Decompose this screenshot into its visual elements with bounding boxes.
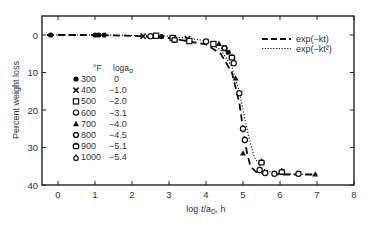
legend-temp: 1000	[81, 152, 101, 162]
x-tick-label: 5	[240, 189, 245, 200]
legend-marker	[73, 76, 78, 81]
data-point	[96, 32, 101, 37]
legend-loga: −4.5	[109, 130, 127, 140]
data-point	[237, 91, 242, 96]
legend-temp: 900	[81, 141, 96, 151]
data-point	[48, 32, 53, 37]
legend-marker	[73, 142, 78, 148]
y-tick-label: 20	[27, 105, 38, 116]
data-point	[211, 41, 216, 46]
x-tick-label: 7	[314, 189, 319, 200]
legend-row: 400−1.0	[73, 85, 126, 95]
legend-row: 500−2.0	[73, 96, 126, 106]
legend-temp: 700	[81, 119, 96, 129]
data-point	[240, 126, 245, 131]
x-tick-label: 6	[277, 189, 282, 200]
legend-temp: 300	[81, 74, 96, 84]
legend-loga: −3.1	[109, 108, 127, 118]
legend-header-loga: logaD	[113, 63, 134, 74]
temperature-legend: °FlogaD3000400−1.0500−2.0600−3.1700−4.08…	[73, 63, 134, 162]
legend-temp: 800	[81, 130, 96, 140]
data-point	[102, 32, 107, 37]
y-tick-label: 10	[27, 67, 38, 78]
legend-temp: 500	[81, 96, 96, 106]
data-point	[263, 170, 268, 175]
legend-marker	[73, 132, 80, 138]
data-point	[148, 34, 153, 39]
legend-loga: −4.0	[109, 119, 127, 129]
legend-temp: 400	[81, 85, 96, 95]
data-point	[153, 33, 158, 38]
legend-loga: −5.4	[109, 152, 127, 162]
y-tick-label: 0	[33, 30, 38, 41]
legend-row: 900−5.1	[73, 141, 126, 151]
y-tick-label: 40	[27, 180, 38, 191]
legend-loga: −5.1	[109, 141, 127, 151]
x-tick-label: 0	[55, 189, 60, 200]
x-tick-label: 4	[203, 189, 208, 200]
data-point	[216, 41, 222, 46]
legend-row: 3000	[73, 74, 119, 84]
data-point	[279, 168, 284, 174]
x-tick-label: 1	[92, 189, 97, 200]
data-point	[187, 38, 192, 43]
x-tick-label: 8	[351, 189, 356, 200]
data-point	[272, 171, 277, 176]
legend-marker	[73, 110, 78, 115]
weight-loss-chart: 012345678010203040log t/aD, hPercent wei…	[0, 0, 370, 226]
data-point	[242, 137, 247, 142]
legend-marker	[73, 99, 78, 104]
data-point	[226, 50, 231, 55]
legend-row: 600−3.1	[73, 108, 126, 118]
curve-legend-label: exp(−kt)	[296, 34, 329, 44]
data-point	[159, 34, 164, 39]
legend-temp: 600	[81, 108, 96, 118]
plot-area: 012345678010203040log t/aD, hPercent wei…	[0, 0, 370, 226]
legend-marker	[74, 154, 78, 161]
y-axis-label: Percent weight loss	[11, 60, 21, 139]
legend-row: 800−4.5	[73, 130, 127, 140]
legend-loga: −2.0	[109, 96, 127, 106]
curve-legend-label: exp(−kt²)	[296, 44, 332, 54]
data-point	[312, 171, 318, 176]
y-tick-label: 30	[27, 142, 38, 153]
data-point	[257, 167, 262, 172]
legend-row: 700−4.0	[73, 119, 127, 129]
data-point	[203, 39, 208, 44]
x-tick-label: 3	[166, 189, 171, 200]
legend-header-temp: °F	[93, 63, 102, 73]
legend-marker	[73, 121, 79, 126]
x-tick-label: 2	[129, 189, 134, 200]
legend-row: 1000−5.4	[74, 152, 127, 162]
legend-marker	[73, 88, 78, 93]
data-point	[231, 61, 236, 66]
data-point	[229, 54, 234, 60]
data-point	[296, 171, 301, 176]
curve-legend: exp(−kt)exp(−kt²)	[262, 34, 332, 54]
data-point	[259, 159, 264, 165]
legend-loga: −1.0	[109, 85, 127, 95]
legend-loga: 0	[114, 74, 119, 84]
data-point	[172, 36, 177, 42]
x-axis-label: log t/aD, h	[186, 204, 225, 215]
data-point	[240, 150, 246, 155]
